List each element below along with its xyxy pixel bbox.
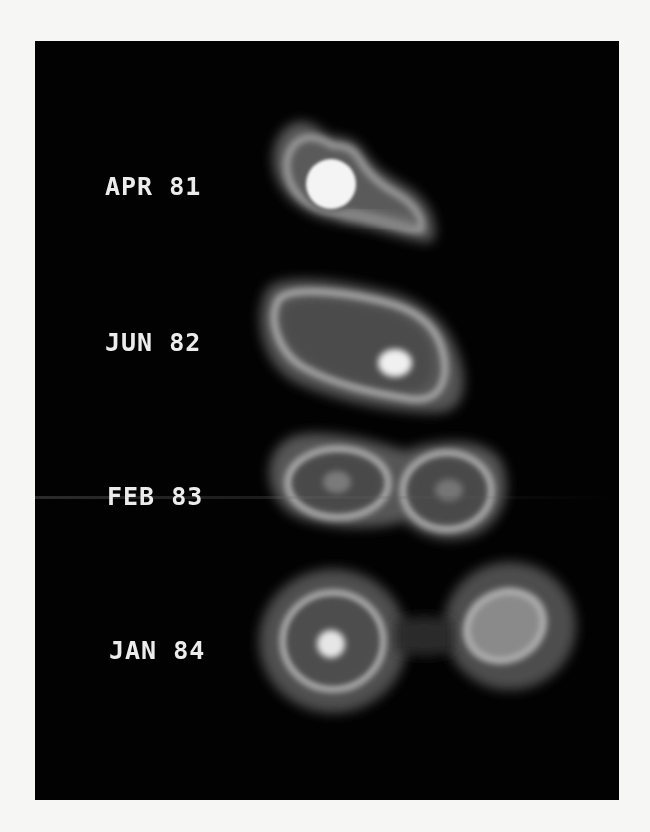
blob-jan-84 <box>259 562 576 713</box>
image-panel: APR 81 JUN 82 FEB 83 JAN 84 <box>35 41 619 800</box>
epoch-label-1: APR 81 <box>105 172 201 201</box>
source-images <box>35 41 619 800</box>
blob-jun-82 <box>260 279 464 413</box>
epoch-label-3: FEB 83 <box>107 482 203 511</box>
epoch-label-2: JUN 82 <box>105 328 201 357</box>
epoch-label-4: JAN 84 <box>109 636 205 665</box>
blob-feb-83 <box>269 433 506 539</box>
blob-apr-81 <box>273 122 435 242</box>
